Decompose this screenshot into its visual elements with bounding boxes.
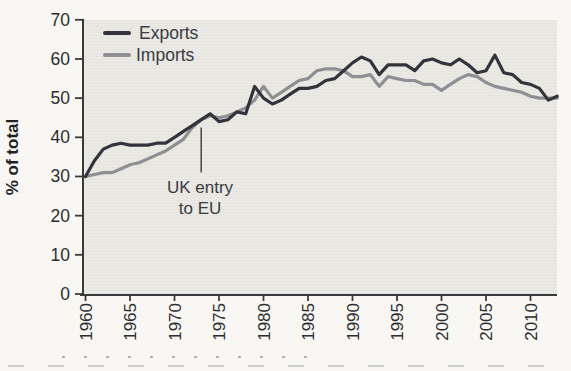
y-tick-label: 0 <box>60 284 70 304</box>
legend-label-exports: Exports <box>139 22 198 44</box>
line-chart-canvas: 0102030405060701960196519701975198019851… <box>0 0 571 371</box>
x-tick-label: 1980 <box>255 303 274 341</box>
annotation-line1: UK entry <box>145 177 255 198</box>
x-tick-label: 1960 <box>77 303 96 341</box>
annotation-uk-entry: UK entry to EU <box>145 177 255 219</box>
legend-item-imports: Imports <box>103 44 198 66</box>
legend-label-imports: Imports <box>136 44 194 66</box>
x-tick-label: 1995 <box>388 303 407 341</box>
legend: Exports Imports <box>103 22 198 66</box>
imports-line-swatch <box>103 53 131 56</box>
x-tick-label: 1965 <box>121 303 140 341</box>
y-tick-label: 10 <box>51 245 71 265</box>
exports-line-swatch <box>103 31 131 34</box>
y-tick-label: 20 <box>51 206 71 226</box>
y-axis-title: % of total <box>2 97 24 217</box>
x-tick-label: 2000 <box>433 303 452 341</box>
y-tick-label: 50 <box>51 88 71 108</box>
x-tick-label: 2005 <box>477 303 496 341</box>
x-tick-label: 1975 <box>210 303 229 341</box>
x-tick-label: 1970 <box>166 303 185 341</box>
x-tick-label: 1990 <box>344 303 363 341</box>
y-tick-label: 70 <box>51 10 71 30</box>
x-tick-label: 1985 <box>299 303 318 341</box>
y-tick-label: 40 <box>51 127 71 147</box>
chart-figure: 0102030405060701960196519701975198019851… <box>0 0 571 371</box>
y-tick-label: 30 <box>51 166 71 186</box>
x-tick-label: 2010 <box>522 303 541 341</box>
annotation-line2: to EU <box>145 198 255 219</box>
legend-item-exports: Exports <box>103 22 198 44</box>
y-tick-label: 60 <box>51 49 71 69</box>
